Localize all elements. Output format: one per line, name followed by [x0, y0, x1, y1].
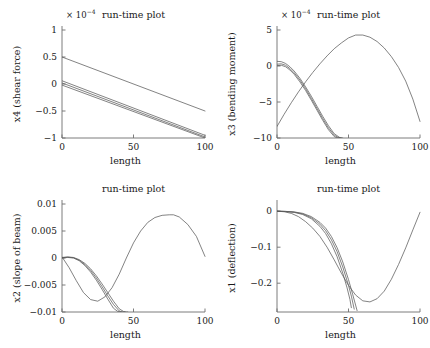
chart-shear-force: run-time plot× 10−4−1−0.500.51050100leng…: [0, 0, 215, 174]
y-tick-label: 1: [51, 25, 57, 35]
x-tick-label: 50: [343, 142, 355, 152]
curve-curve-a: [277, 61, 343, 138]
y-tick-label: −5: [259, 97, 273, 107]
x-axis-label: length: [110, 329, 141, 340]
curve-curve-1: [62, 57, 205, 111]
curve-curve-2: [62, 81, 205, 136]
x-axis-label: length: [110, 155, 141, 166]
curve-wide-dip: [277, 211, 420, 302]
y-axis-label: x2 (slope of beam): [11, 214, 22, 303]
curve-parabola: [277, 35, 420, 126]
y-tick-label: −0.005: [24, 280, 58, 290]
subplot-slope-of-beam: run-time plot−0.01−0.00500.0050.01050100…: [0, 174, 215, 348]
y-tick-label: −0.5: [35, 106, 57, 116]
y-tick-label: 0: [266, 61, 272, 71]
y-tick-label: −0.1: [250, 242, 272, 252]
x-tick-label: 0: [274, 142, 280, 152]
x-axis-label: length: [325, 155, 356, 166]
y-tick-label: 0: [51, 79, 57, 89]
chart-title: run-time plot: [317, 9, 380, 20]
x-tick-label: 100: [196, 316, 213, 326]
y-axis-exponent-label: × 10−4: [281, 8, 311, 20]
y-tick-label: 0.005: [31, 226, 57, 236]
curve-curve-a: [277, 211, 357, 310]
y-tick-label: 0.5: [43, 52, 58, 62]
y-tick-label: −0.01: [29, 307, 57, 317]
curves-group: [277, 35, 420, 138]
curve-curve-4: [62, 85, 205, 138]
subplot-deflection: run-time plot−0.2−0.10050100lengthx1 (de…: [215, 174, 430, 348]
y-axis-label: x1 (deflection): [226, 223, 237, 293]
chart-title: run-time plot: [317, 183, 380, 194]
runtime-plot-figure: run-time plot× 10−4−1−0.500.51050100leng…: [0, 0, 430, 348]
curves-group: [277, 211, 420, 310]
x-tick-label: 50: [128, 316, 140, 326]
curve-curve-c: [277, 65, 340, 138]
x-tick-label: 100: [411, 316, 428, 326]
subplot-bending-moment: run-time plot× 10−4−10−505050100lengthx3…: [215, 0, 430, 174]
chart-deflection: run-time plot−0.2−0.10050100lengthx1 (de…: [215, 174, 430, 348]
y-axis-label: x4 (shear force): [11, 46, 22, 122]
chart-bending-moment: run-time plot× 10−4−10−505050100lengthx3…: [215, 0, 430, 174]
y-tick-label: −0.2: [250, 278, 272, 288]
x-tick-label: 50: [128, 142, 140, 152]
curve-curve-b: [277, 211, 354, 309]
curve-curve-b: [277, 64, 341, 138]
x-tick-label: 50: [343, 316, 355, 326]
x-tick-label: 0: [59, 316, 65, 326]
y-tick-label: −10: [253, 133, 272, 143]
x-axis-label: length: [325, 329, 356, 340]
y-tick-label: 5: [266, 25, 272, 35]
curve-curve-3: [62, 83, 205, 137]
curve-curve-a: [62, 257, 128, 312]
curve-dip-and-rise: [62, 215, 205, 301]
y-tick-label: 0: [266, 206, 272, 216]
subplot-shear-force: run-time plot× 10−4−1−0.500.51050100leng…: [0, 0, 215, 174]
x-tick-label: 100: [196, 142, 213, 152]
chart-title: run-time plot: [102, 9, 165, 20]
y-axis-exponent-label: × 10−4: [66, 8, 96, 20]
y-tick-label: 0.01: [37, 199, 57, 209]
chart-slope-of-beam: run-time plot−0.01−0.00500.0050.01050100…: [0, 174, 215, 348]
x-tick-label: 100: [411, 142, 428, 152]
x-tick-label: 0: [59, 142, 65, 152]
curves-group: [62, 215, 205, 312]
curves-group: [62, 57, 205, 138]
chart-title: run-time plot: [102, 183, 165, 194]
y-tick-label: −1: [44, 133, 57, 143]
y-axis-label: x3 (bending moment): [226, 32, 237, 135]
x-tick-label: 0: [274, 316, 280, 326]
y-tick-label: 0: [51, 253, 57, 263]
